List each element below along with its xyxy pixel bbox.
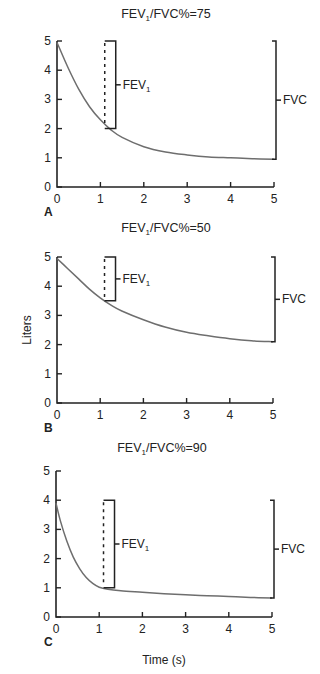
y-tick-label: 0 (43, 610, 50, 624)
x-tick-label: 1 (97, 408, 104, 422)
fev1-bracket (105, 41, 116, 129)
panel-label: C (44, 635, 53, 649)
x-tick-label: 4 (226, 408, 233, 422)
volume-curve (57, 42, 274, 159)
fvc-bracket (270, 500, 274, 598)
y-tick-label: 1 (44, 367, 51, 381)
chart-panel-c: FEV1/FVC%=90012345012345FEV1FVCCTime (s) (43, 441, 305, 667)
x-tick-label: 4 (227, 192, 234, 206)
axes (56, 471, 272, 617)
fvc-bracket (272, 41, 276, 159)
fvc-label: FVC (282, 292, 306, 306)
panel-label: B (44, 421, 53, 435)
y-tick-label: 3 (44, 308, 51, 322)
spirometry-figure: FEV1/FVC%=75012345012345FEV1FVCAFEV1/FVC… (0, 0, 320, 674)
y-tick-label: 3 (44, 92, 51, 106)
x-axis-label: Time (s) (142, 653, 186, 667)
y-tick-label: 1 (44, 151, 51, 165)
x-tick-label: 2 (140, 408, 147, 422)
x-tick-label: 5 (270, 408, 277, 422)
y-axis-label: Liters (20, 315, 34, 344)
chart-panel-a: FEV1/FVC%=75012345012345FEV1FVCA (44, 7, 307, 219)
chart-title: FEV1/FVC%=90 (117, 441, 207, 457)
x-tick-label: 0 (54, 192, 61, 206)
x-tick-label: 2 (140, 192, 147, 206)
x-tick-label: 3 (182, 622, 189, 636)
y-tick-label: 0 (44, 396, 51, 410)
y-tick-label: 4 (43, 493, 50, 507)
chart-title: FEV1/FVC%=75 (121, 7, 211, 23)
x-tick-label: 3 (183, 408, 190, 422)
y-tick-label: 4 (44, 63, 51, 77)
y-tick-label: 2 (44, 338, 51, 352)
x-tick-label: 5 (269, 622, 276, 636)
fvc-label: FVC (283, 93, 307, 107)
x-tick-label: 3 (184, 192, 191, 206)
x-tick-label: 4 (225, 622, 232, 636)
x-tick-label: 1 (97, 192, 104, 206)
axes (57, 257, 273, 403)
fev1-label: FEV1 (123, 272, 151, 288)
fev1-label: FEV1 (122, 537, 150, 553)
fev1-bracket (104, 500, 115, 588)
y-tick-label: 5 (44, 34, 51, 48)
fvc-label: FVC (281, 542, 305, 556)
y-tick-label: 0 (44, 180, 51, 194)
y-tick-label: 5 (43, 464, 50, 478)
x-tick-label: 0 (54, 408, 61, 422)
fvc-bracket (271, 257, 275, 342)
y-tick-label: 5 (44, 250, 51, 264)
axes (57, 41, 274, 187)
y-tick-label: 4 (44, 279, 51, 293)
x-tick-label: 2 (139, 622, 146, 636)
panel-label: A (44, 205, 53, 219)
volume-curve (57, 258, 273, 341)
x-tick-label: 5 (271, 192, 278, 206)
fev1-bracket (105, 257, 116, 301)
fev1-label: FEV1 (123, 78, 151, 94)
x-tick-label: 0 (53, 622, 60, 636)
chart-panel-b: FEV1/FVC%=50012345012345FEV1FVCBLiters (20, 221, 306, 435)
chart-title: FEV1/FVC%=50 (121, 221, 211, 237)
volume-curve (56, 503, 272, 598)
x-tick-label: 1 (96, 622, 103, 636)
y-tick-label: 1 (43, 581, 50, 595)
y-tick-label: 2 (44, 122, 51, 136)
y-tick-label: 3 (43, 522, 50, 536)
y-tick-label: 2 (43, 552, 50, 566)
